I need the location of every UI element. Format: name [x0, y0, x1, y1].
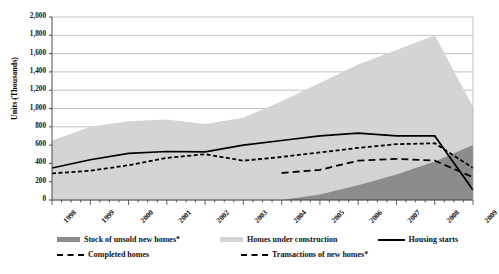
legend-label: Transactions of new homes*	[272, 250, 368, 259]
legend-line-housing-starts	[378, 239, 405, 241]
y-axis-tick-label: 1,800	[0, 31, 46, 38]
legend-item[interactable]: Completed homes	[57, 250, 149, 259]
chart-legend: Stock of unsold new homes*Homes under co…	[0, 232, 487, 262]
y-axis-tick-label: 600	[0, 141, 46, 148]
legend-item[interactable]: Transactions of new homes*	[241, 250, 368, 259]
y-axis-tick-label: 1,600	[0, 50, 46, 57]
y-axis-tick-label: 1,400	[0, 68, 46, 75]
legend-row: Stock of unsold new homes*Homes under co…	[0, 232, 487, 247]
y-axis-tick-label: 400	[0, 159, 46, 166]
legend-label: Housing starts	[409, 235, 459, 244]
legend-item[interactable]: Homes under construction	[220, 235, 338, 244]
legend-swatch-under-construction	[220, 237, 243, 242]
y-axis-tick-label: 2,000	[0, 13, 46, 20]
legend-line-completed-homes	[57, 254, 84, 256]
y-axis-tick-label: 0	[0, 196, 46, 203]
y-axis-tick-label: 1,000	[0, 105, 46, 112]
legend-swatch-unsold-stock	[57, 237, 80, 242]
legend-label: Completed homes	[88, 250, 149, 259]
legend-item[interactable]: Stock of unsold new homes*	[57, 235, 180, 244]
legend-line-transactions	[241, 254, 268, 256]
legend-label: Homes under construction	[247, 235, 338, 244]
legend-item[interactable]: Housing starts	[378, 235, 459, 244]
y-axis-tick-label: 800	[0, 123, 46, 130]
y-axis-tick-label: 1,200	[0, 86, 46, 93]
legend-row: Completed homesTransactions of new homes…	[0, 247, 487, 262]
y-axis-tick-label: 200	[0, 178, 46, 185]
legend-label: Stock of unsold new homes*	[84, 235, 180, 244]
